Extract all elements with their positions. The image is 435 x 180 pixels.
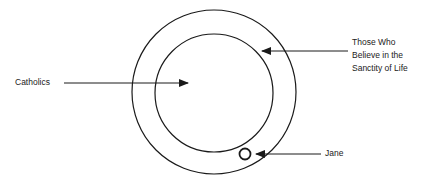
sanctity-label-line-1: Those Who xyxy=(352,36,435,49)
sanctity-label-line-3: Sanctity of Life xyxy=(352,62,435,75)
jane-point-circle xyxy=(240,149,251,160)
catholics-label: Catholics xyxy=(15,76,50,89)
euler-diagram xyxy=(0,0,435,180)
sanctity-label-line-2: Believe in the xyxy=(352,49,435,62)
inner-set-circle xyxy=(155,34,273,152)
jane-label: Jane xyxy=(325,147,343,160)
sanctity-label: Those Who Believe in the Sanctity of Lif… xyxy=(352,36,435,75)
